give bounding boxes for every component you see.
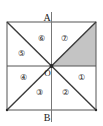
sector-label-1: ① <box>78 73 85 82</box>
label-a: A <box>43 12 51 23</box>
sector-label-6: ⑥ <box>38 34 45 43</box>
sector-label-3: ③ <box>36 88 43 97</box>
figure-canvas: A B O ① ② ③ ④ ⑤ ⑥ ⑦ <box>0 0 103 126</box>
sector-label-7: ⑦ <box>61 34 68 43</box>
sector-label-5: ⑤ <box>18 49 25 58</box>
geometry-figure: A B O ① ② ③ ④ ⑤ ⑥ ⑦ <box>0 0 103 126</box>
label-b: B <box>44 112 51 123</box>
corner-dot-bottom-right <box>95 109 97 111</box>
sector-label-2: ② <box>62 88 69 97</box>
label-origin: O <box>44 68 51 78</box>
corner-dot-bottom-left <box>6 109 8 111</box>
sector-label-4: ④ <box>20 73 27 82</box>
